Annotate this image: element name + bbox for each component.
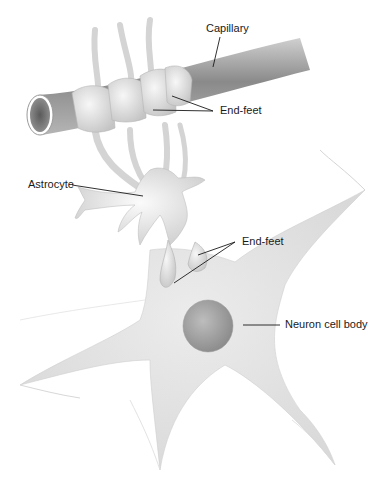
label-end-feet-top: End-feet <box>220 104 262 116</box>
nucleus <box>183 300 233 352</box>
label-neuron-cell-body: Neuron cell body <box>285 318 368 330</box>
label-astrocyte: Astrocyte <box>28 178 74 190</box>
label-end-feet-bottom: End-feet <box>242 235 284 247</box>
label-capillary: Capillary <box>206 22 249 34</box>
leader-end-feet-bottom-1 <box>198 242 235 255</box>
astrocyte-diagram <box>0 0 377 483</box>
